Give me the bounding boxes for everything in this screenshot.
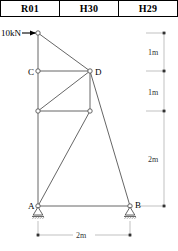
- dimension-chain-right: 1m 1m 2m: [140, 32, 166, 208]
- dimension-right-2m: 2m: [148, 155, 159, 164]
- label-a: A: [28, 201, 35, 211]
- member-e-d: [38, 33, 90, 71]
- dimension-right-1m-a: 1m: [148, 48, 159, 57]
- header-table: R01 H30 H29: [0, 0, 178, 17]
- joint-g[interactable]: [88, 109, 92, 113]
- support-b-hatch: [125, 217, 137, 219]
- support-b-triangle: [125, 207, 135, 215]
- header-cell-r01[interactable]: R01: [0, 1, 60, 16]
- dimension-bottom-2m: 2m: [76, 231, 87, 240]
- member-d-f: [38, 71, 90, 111]
- header-cell-h30[interactable]: H30: [60, 1, 119, 16]
- support-a-triangle: [33, 207, 43, 215]
- screenshot-root: R01 H30 H29: [0, 0, 178, 251]
- joint-f[interactable]: [36, 109, 40, 113]
- member-d-b: [90, 71, 130, 206]
- truss-members: [38, 33, 130, 206]
- joint-d[interactable]: [88, 69, 92, 73]
- member-g-a: [38, 111, 90, 206]
- label-d: D: [95, 67, 102, 77]
- load-arrow-group: 10kN: [1, 28, 36, 38]
- truss-diagram: 10kN C D A B: [0, 17, 178, 251]
- label-c: C: [28, 67, 34, 77]
- joint-top[interactable]: [36, 31, 40, 35]
- dimension-bottom: 2m: [37, 221, 132, 240]
- support-a-hatch: [33, 217, 45, 219]
- dimension-right-1m-b: 1m: [148, 88, 159, 97]
- truss-joints: [36, 31, 132, 208]
- joint-c[interactable]: [36, 69, 40, 73]
- load-label: 10kN: [1, 28, 22, 38]
- label-b: B: [135, 200, 141, 210]
- header-cell-h29[interactable]: H29: [119, 1, 178, 16]
